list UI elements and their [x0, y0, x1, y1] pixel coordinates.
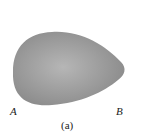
egg-shape-figure [0, 0, 160, 138]
label-a: A [10, 105, 17, 117]
label-b: B [116, 105, 123, 117]
figure-caption: (a) [61, 119, 73, 131]
egg-shape [13, 32, 125, 105]
